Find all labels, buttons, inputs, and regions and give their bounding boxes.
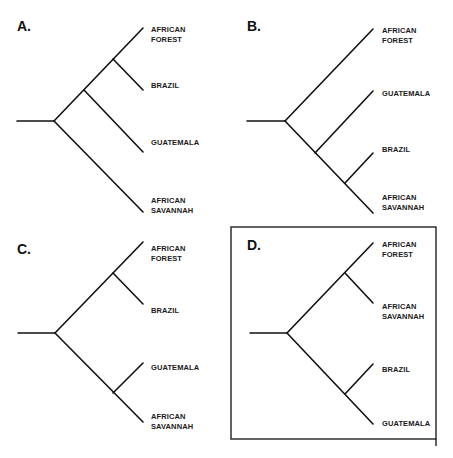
taxon-label: FOREST [382, 250, 413, 259]
tree-d [250, 243, 373, 424]
branch-to-african-forest [54, 28, 143, 121]
taxon-label: SAVANNAH [382, 312, 424, 321]
taxon-label: AFRICAN [382, 193, 416, 202]
taxon-label: FOREST [382, 36, 413, 45]
panel-a: A. AFRICAN FOREST BRAZIL GUATEMALA AFRIC… [17, 18, 200, 215]
taxon-labels-c: AFRICAN FOREST BRAZIL GUATEMALA AFRICAN … [151, 244, 200, 431]
taxon-label: BRAZIL [382, 145, 410, 154]
taxon-label: FOREST [151, 254, 182, 263]
branch-to-african-forest [287, 243, 373, 333]
panel-label-d: D. [247, 237, 261, 253]
taxon-label: FOREST [151, 35, 182, 44]
branch-to-brazil [113, 59, 143, 90]
branch-to-african-forest [55, 242, 143, 333]
taxon-label: SAVANNAH [382, 203, 424, 212]
branch-to-guatemala [315, 91, 373, 153]
taxon-label: SAVANNAH [151, 206, 193, 215]
branch-to-african-savannah [55, 333, 143, 422]
taxon-label: GUATEMALA [151, 363, 200, 372]
taxon-label: GUATEMALA [382, 89, 431, 98]
branch-to-brazil [345, 364, 373, 394]
taxon-labels-a: AFRICAN FOREST BRAZIL GUATEMALA AFRICAN … [151, 25, 200, 215]
taxon-labels-b: AFRICAN FOREST GUATEMALA BRAZIL AFRICAN … [382, 26, 431, 212]
taxon-label: AFRICAN [382, 26, 416, 35]
branch-to-african-savannah [345, 273, 373, 303]
branch-to-african-savannah [54, 121, 143, 212]
branch-to-brazil [345, 153, 373, 183]
tree-b [247, 29, 373, 213]
taxon-label: GUATEMALA [151, 138, 200, 147]
branch-to-brazil [113, 273, 143, 304]
panel-b: B. AFRICAN FOREST GUATEMALA BRAZIL AFRIC… [247, 18, 431, 213]
taxon-label: AFRICAN [151, 412, 185, 421]
tree-a [17, 28, 143, 212]
taxon-label: GUATEMALA [382, 419, 431, 428]
taxon-label: AFRICAN [151, 244, 185, 253]
phylogeny-figure: A. AFRICAN FOREST BRAZIL GUATEMALA AFRIC… [0, 0, 453, 458]
tree-c [18, 242, 143, 422]
taxon-label: BRAZIL [151, 306, 179, 315]
taxon-label: AFRICAN [151, 196, 185, 205]
branch-to-african-forest [285, 29, 373, 121]
panel-label-b: B. [247, 18, 261, 34]
taxon-label: AFRICAN [151, 25, 185, 34]
taxon-label: AFRICAN [382, 302, 416, 311]
taxon-label: BRAZIL [382, 365, 410, 374]
panel-label-c: C. [17, 241, 31, 257]
taxon-label: AFRICAN [382, 240, 416, 249]
taxon-labels-d: AFRICAN FOREST AFRICAN SAVANNAH BRAZIL G… [382, 240, 431, 428]
branch-to-guatemala [113, 363, 143, 393]
panel-c: C. AFRICAN FOREST BRAZIL GUATEMALA AFRIC… [17, 241, 200, 431]
branch-to-guatemala [84, 90, 143, 152]
panel-d: D. AFRICAN FOREST AFRICAN SAVANNAH BRAZI… [231, 227, 436, 446]
taxon-label: SAVANNAH [151, 422, 193, 431]
taxon-label: BRAZIL [151, 81, 179, 90]
panel-label-a: A. [17, 18, 31, 34]
